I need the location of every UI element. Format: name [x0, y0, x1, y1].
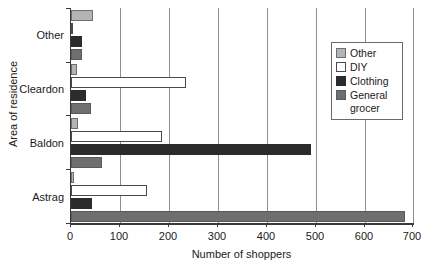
bar-chart: Area of residence Other Cleardon Baldon …: [0, 0, 429, 273]
legend-swatch-other-icon: [336, 48, 346, 58]
x-tick-label-100: 100: [99, 230, 139, 242]
bar-baldon-other: [71, 118, 78, 129]
legend-swatch-general-grocer-icon: [336, 90, 346, 100]
bar-baldon-diy: [71, 131, 162, 142]
y-axis-label-other: Other: [36, 29, 64, 41]
legend-label-other: Other: [350, 47, 376, 60]
bar-cleardon-grocer: [71, 103, 91, 114]
bar-astrag-diy: [71, 185, 147, 196]
bar-cleardon-other: [71, 64, 77, 75]
x-tick-label-600: 600: [344, 230, 384, 242]
gridline-500: [316, 8, 317, 223]
bar-astrag-clothing: [71, 198, 92, 209]
bar-baldon-grocer: [71, 157, 102, 168]
x-tick-label-400: 400: [246, 230, 286, 242]
x-tick-100: [119, 223, 120, 227]
y-axis-labels: Other Cleardon Baldon Astrag: [0, 0, 64, 223]
x-tick-label-500: 500: [295, 230, 335, 242]
x-tick-0: [70, 223, 71, 227]
bar-baldon-clothing: [71, 144, 311, 155]
legend-item-general-grocer: General: [336, 88, 399, 102]
legend-label-grocer: grocer: [350, 102, 399, 115]
x-tick-200: [168, 223, 169, 227]
legend-swatch-clothing-icon: [336, 76, 346, 86]
legend-label-clothing: Clothing: [350, 75, 389, 88]
legend-item-other: Other: [336, 46, 399, 60]
bar-other-other: [71, 10, 93, 21]
bar-astrag-other: [71, 172, 74, 183]
x-tick-label-200: 200: [148, 230, 188, 242]
bar-other-diy: [71, 23, 73, 34]
x-tick-600: [364, 223, 365, 227]
y-axis-label-baldon: Baldon: [30, 137, 64, 149]
x-tick-500: [315, 223, 316, 227]
y-axis-label-astrag: Astrag: [32, 191, 64, 203]
legend-item-diy: DIY: [336, 60, 399, 74]
legend-label-general: General: [350, 89, 387, 102]
bar-other-grocer: [71, 49, 82, 60]
x-tick-700: [412, 223, 413, 227]
bar-other-clothing: [71, 36, 82, 47]
x-tick-label-700: 700: [392, 230, 429, 242]
legend-swatch-diy-icon: [336, 62, 346, 72]
gridline-200: [169, 8, 170, 223]
gridline-300: [218, 8, 219, 223]
bar-cleardon-clothing: [71, 90, 86, 101]
gridline-700: [413, 8, 414, 223]
x-tick-400: [266, 223, 267, 227]
x-tick-label-0: 0: [50, 230, 90, 242]
x-tick-300: [217, 223, 218, 227]
bar-astrag-grocer: [71, 211, 405, 222]
legend-label-diy: DIY: [350, 61, 368, 74]
x-tick-label-300: 300: [197, 230, 237, 242]
y-axis-label-cleardon: Cleardon: [19, 83, 64, 95]
x-axis-line: [70, 223, 414, 225]
legend: Other DIY Clothing General grocer: [331, 42, 403, 120]
legend-item-clothing: Clothing: [336, 74, 399, 88]
bar-cleardon-diy: [71, 77, 186, 88]
gridline-400: [267, 8, 268, 223]
x-axis-title: Number of shoppers: [70, 248, 413, 260]
